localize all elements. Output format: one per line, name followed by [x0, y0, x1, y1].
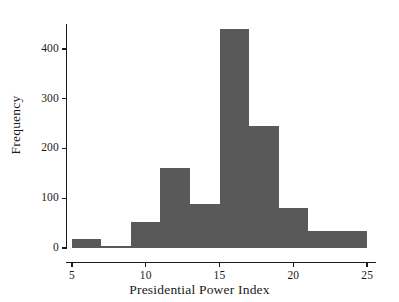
histogram-bar: [279, 208, 309, 248]
y-axis-tick-label: 100: [21, 192, 59, 204]
y-axis-title: Frequency: [9, 45, 23, 205]
y-axis-tick-label: 400: [21, 43, 59, 55]
histogram-bar: [220, 29, 250, 248]
x-axis-tick-label: 10: [126, 270, 166, 282]
y-axis-tick-label: 300: [21, 93, 59, 105]
histogram-figure: 0100200300400510152025 Presidential Powe…: [0, 0, 399, 302]
histogram-bar: [131, 222, 161, 248]
x-axis-title: Presidential Power Index: [0, 283, 399, 297]
x-axis-tick: [71, 262, 72, 267]
x-axis-line: [66, 262, 376, 263]
plot-area: [66, 24, 376, 248]
x-axis-tick-label: 25: [347, 270, 387, 282]
histogram-bar: [190, 204, 220, 248]
y-axis-tick-label: 200: [21, 142, 59, 154]
histogram-bar: [338, 231, 368, 248]
x-axis-tick-label: 5: [52, 270, 92, 282]
histogram-bar: [160, 168, 190, 248]
histogram-bar: [72, 239, 102, 248]
x-axis-tick-label: 20: [273, 270, 313, 282]
x-axis-tick-label: 15: [200, 270, 240, 282]
histogram-bar: [249, 126, 279, 248]
x-axis-tick: [145, 262, 146, 267]
x-axis-tick: [293, 262, 294, 267]
histogram-bar: [101, 246, 131, 248]
y-axis-tick-label: 0: [21, 242, 59, 254]
x-axis-tick: [366, 262, 367, 267]
x-axis-tick: [219, 262, 220, 267]
histogram-bar: [308, 231, 338, 248]
